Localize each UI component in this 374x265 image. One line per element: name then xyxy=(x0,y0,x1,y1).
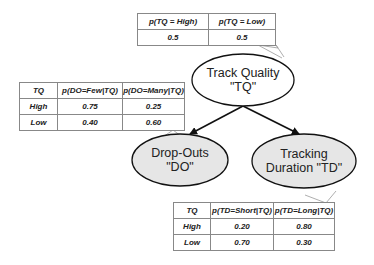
table-cell: 0.25 xyxy=(123,99,185,115)
table-cell: High xyxy=(174,219,211,235)
node-do-abbrev: "DO" xyxy=(132,160,228,174)
table-row: Low 0.40 0.60 xyxy=(20,115,185,131)
table-header-cell: p(TD=Long|TQ) xyxy=(274,203,335,219)
node-do-name: Drop-Outs xyxy=(132,146,228,160)
edge-tq-do xyxy=(190,106,243,134)
node-label-td: Tracking Duration "TD" xyxy=(252,147,356,175)
table-row: High 0.20 0.80 xyxy=(174,219,335,235)
prior-table-tq: p(TQ = High) p(TQ = Low) 0.5 0.5 xyxy=(137,13,276,46)
table-cell: 0.5 xyxy=(209,30,276,46)
table-header-cell: TQ xyxy=(20,83,58,99)
cpt-table-td: TQ p(TD=Short|TQ) p(TD=Long|TQ) High 0.2… xyxy=(173,202,335,251)
table-cell: 0.40 xyxy=(58,115,123,131)
table-header-cell: p(TQ = High) xyxy=(138,14,209,30)
table-cell: High xyxy=(20,99,58,115)
node-label-do: Drop-Outs "DO" xyxy=(132,146,228,174)
node-tq-abbrev: "TQ" xyxy=(193,80,293,94)
table-header-cell: p(TD=Short|TQ) xyxy=(211,203,274,219)
node-td-name: Tracking xyxy=(252,147,356,161)
table-cell: Low xyxy=(20,115,58,131)
table-header-row: TQ p(DO=Few|TQ) p(DO=Many|TQ) xyxy=(20,83,185,99)
table-cell: 0.20 xyxy=(211,219,274,235)
table-row: High 0.75 0.25 xyxy=(20,99,185,115)
node-label-tq: Track Quality "TQ" xyxy=(193,66,293,94)
edge-tq-td xyxy=(243,106,299,134)
table-header-cell: p(DO=Many|TQ) xyxy=(123,83,185,99)
table-cell: 0.5 xyxy=(138,30,209,46)
node-tq-name: Track Quality xyxy=(193,66,293,80)
table-cell: 0.75 xyxy=(58,99,123,115)
table-header-cell: p(DO=Few|TQ) xyxy=(58,83,123,99)
node-td-abbrev: Duration "TD" xyxy=(252,161,356,175)
table-cell: 0.60 xyxy=(123,115,185,131)
cpt-table-do: TQ p(DO=Few|TQ) p(DO=Many|TQ) High 0.75 … xyxy=(19,82,185,131)
table-header-cell: TQ xyxy=(174,203,211,219)
table-row: Low 0.70 0.30 xyxy=(174,235,335,251)
table-header-row: p(TQ = High) p(TQ = Low) xyxy=(138,14,276,30)
table-row: 0.5 0.5 xyxy=(138,30,276,46)
table-cell: 0.30 xyxy=(274,235,335,251)
table-cell: 0.80 xyxy=(274,219,335,235)
table-header-row: TQ p(TD=Short|TQ) p(TD=Long|TQ) xyxy=(174,203,335,219)
table-cell: 0.70 xyxy=(211,235,274,251)
table-header-cell: p(TQ = Low) xyxy=(209,14,276,30)
table-cell: Low xyxy=(174,235,211,251)
